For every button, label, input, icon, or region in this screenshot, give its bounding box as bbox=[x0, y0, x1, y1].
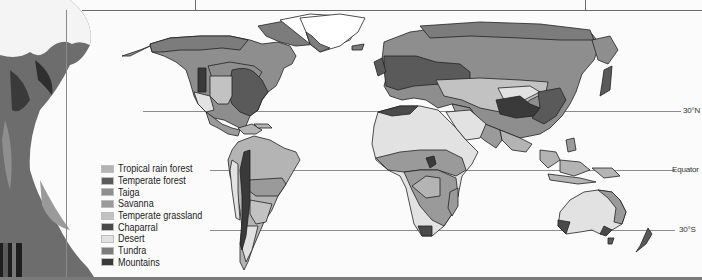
swatch-temperate-forest bbox=[101, 177, 114, 185]
africa bbox=[372, 106, 486, 236]
iceland bbox=[352, 44, 364, 50]
frame-divider bbox=[585, 0, 586, 10]
legend-item-temperate-grassland: Temperate grassland bbox=[101, 210, 216, 222]
swatch-savanna bbox=[101, 200, 114, 208]
swatch-desert bbox=[101, 235, 114, 243]
frame-left-rule bbox=[66, 10, 67, 280]
legend-item-tropical-rain-forest: Tropical rain forest bbox=[101, 163, 216, 175]
legend-item-chaparral: Chaparral bbox=[101, 221, 216, 233]
biome-legend: Tropical rain forest Temperate forest Ta… bbox=[101, 163, 216, 268]
swatch-tundra bbox=[101, 247, 114, 255]
swatch-taiga bbox=[101, 188, 114, 196]
australia bbox=[558, 190, 626, 244]
frame-top-rule bbox=[82, 10, 702, 11]
legend-item-savanna: Savanna bbox=[101, 198, 216, 210]
legend-item-tundra: Tundra bbox=[101, 245, 216, 257]
legend-item-temperate-forest: Temperate forest bbox=[101, 175, 216, 187]
swatch-tropical-rain-forest bbox=[101, 165, 114, 173]
wave-illustration bbox=[0, 0, 100, 280]
alaska-aleutians bbox=[122, 46, 150, 56]
southeast-asia-islands bbox=[540, 138, 620, 184]
legend-item-desert: Desert bbox=[101, 233, 216, 245]
japan bbox=[600, 66, 612, 96]
new-zealand bbox=[636, 228, 652, 252]
legend-item-mountains: Mountains bbox=[101, 257, 216, 269]
swatch-mountains bbox=[101, 258, 114, 266]
swatch-chaparral bbox=[101, 223, 114, 231]
legend-item-taiga: Taiga bbox=[101, 186, 216, 198]
swatch-temperate-grassland bbox=[101, 212, 114, 220]
frame-divider bbox=[195, 0, 196, 10]
south-america bbox=[228, 136, 300, 270]
